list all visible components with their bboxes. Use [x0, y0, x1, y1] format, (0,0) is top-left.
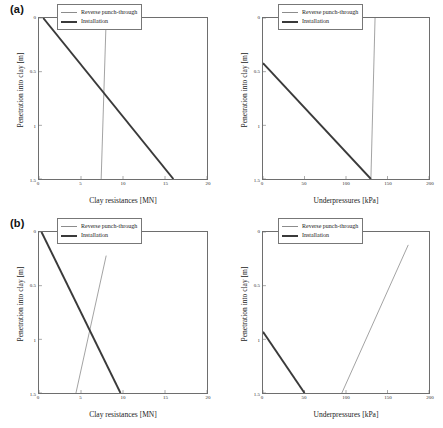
y-tick-label: 1.5 [30, 178, 36, 183]
y-tick-label: 0.5 [30, 69, 36, 74]
y-tick-label: 0 [34, 15, 37, 20]
y-tick-label: 0.5 [30, 283, 36, 288]
x-tick-label: 200 [426, 181, 434, 186]
series-line-reverse-punch-through [101, 18, 106, 179]
legend-item-reverse-punch-through: Reverse punch-through [61, 222, 137, 231]
series-line-installation [263, 63, 371, 179]
series-line-reverse-punch-through [371, 18, 375, 179]
y-tick-label: 1 [258, 337, 261, 342]
legend: Reverse punch-through Installation [57, 4, 142, 30]
x-tick-label: 20 [206, 395, 211, 400]
plot-area [262, 231, 430, 394]
legend-label: Installation [81, 17, 108, 26]
line-swatch-icon [282, 21, 298, 23]
line-swatch-icon [282, 12, 298, 13]
x-tick-labels: 05101520 [38, 181, 208, 191]
x-tick-labels: 050100150200 [262, 395, 430, 405]
legend-item-installation: Installation [61, 231, 137, 240]
legend-item-reverse-punch-through: Reverse punch-through [61, 8, 137, 17]
x-axis-title: Underpressures [kPa] [262, 196, 430, 205]
x-tick-label: 10 [121, 181, 126, 186]
x-tick-label: 50 [302, 181, 307, 186]
y-tick-label: 0.5 [254, 69, 260, 74]
legend-label: Reverse punch-through [81, 222, 137, 231]
x-tick-label: 10 [121, 395, 126, 400]
x-tick-label: 150 [384, 395, 392, 400]
legend: Reverse punch-through Installation [278, 4, 363, 30]
legend-label: Reverse punch-through [302, 222, 358, 231]
legend-label: Installation [302, 17, 329, 26]
x-tick-label: 5 [79, 395, 82, 400]
x-tick-label: 5 [79, 181, 82, 186]
x-tick-label: 15 [163, 181, 168, 186]
panel-a-left: 00.511.5 05101520 Clay resistances [MN] … [0, 0, 221, 214]
x-tick-label: 0 [261, 181, 264, 186]
x-axis-title: Clay resistances [MN] [38, 410, 208, 419]
y-tick-label: 0 [258, 229, 261, 234]
plot-curves [263, 232, 429, 393]
x-tick-label: 15 [163, 395, 168, 400]
legend: Reverse punch-through Installation [278, 218, 363, 244]
plot-curves [39, 232, 207, 393]
plot-area [38, 231, 208, 394]
y-tick-label: 0 [34, 229, 37, 234]
x-tick-label: 0 [261, 395, 264, 400]
x-tick-labels: 050100150200 [262, 181, 430, 191]
y-tick-label: 1 [258, 123, 261, 128]
x-tick-label: 50 [302, 395, 307, 400]
x-tick-label: 20 [206, 181, 211, 186]
plot-curves [263, 18, 429, 179]
line-swatch-icon [61, 21, 77, 23]
plot-area [38, 17, 208, 180]
figure-row-a: (a) 00.511.5 05101520 Clay resistances [… [0, 0, 443, 214]
line-swatch-icon [282, 226, 298, 227]
y-axis-title: Penetration into clay [m] [240, 229, 249, 379]
y-axis-title: Penetration into clay [m] [16, 15, 25, 165]
x-tick-label: 200 [426, 395, 434, 400]
x-tick-label: 0 [37, 181, 40, 186]
x-tick-label: 0 [37, 395, 40, 400]
legend-label: Installation [302, 231, 329, 240]
panel-b-right: 00.511.5 050100150200 Underpressures [kP… [222, 214, 443, 428]
x-tick-labels: 05101520 [38, 395, 208, 405]
line-swatch-icon [61, 235, 77, 237]
line-swatch-icon [61, 226, 77, 227]
plot-area [262, 17, 430, 180]
legend-item-installation: Installation [282, 17, 358, 26]
x-axis-title: Clay resistances [MN] [38, 196, 208, 205]
y-tick-label: 1.5 [254, 392, 260, 397]
series-line-reverse-punch-through [342, 245, 408, 393]
series-line-reverse-punch-through [76, 256, 106, 393]
legend: Reverse punch-through Installation [57, 218, 142, 244]
line-swatch-icon [282, 235, 298, 237]
legend-label: Installation [81, 231, 108, 240]
figure-root: (a) 00.511.5 05101520 Clay resistances [… [0, 0, 443, 428]
series-line-installation [43, 18, 173, 179]
x-tick-label: 100 [342, 395, 350, 400]
y-tick-label: 1 [34, 337, 37, 342]
legend-item-installation: Installation [61, 17, 137, 26]
x-tick-label: 150 [384, 181, 392, 186]
y-tick-label: 0.5 [254, 283, 260, 288]
y-tick-label: 1.5 [30, 392, 36, 397]
plot-curves [39, 18, 207, 179]
y-axis-title: Penetration into clay [m] [16, 229, 25, 379]
panel-b-left: 00.511.5 05101520 Clay resistances [MN] … [0, 214, 221, 428]
legend-label: Reverse punch-through [302, 8, 358, 17]
figure-row-b: (b) 00.511.5 05101520 Clay resistances [… [0, 214, 443, 428]
x-axis-title: Underpressures [kPa] [262, 410, 430, 419]
legend-item-installation: Installation [282, 231, 358, 240]
legend-label: Reverse punch-through [81, 8, 137, 17]
line-swatch-icon [61, 12, 77, 13]
y-tick-label: 1.5 [254, 178, 260, 183]
series-line-installation [263, 332, 305, 393]
panel-a-right: 00.511.5 050100150200 Underpressures [kP… [222, 0, 443, 214]
y-tick-label: 1 [34, 123, 37, 128]
legend-item-reverse-punch-through: Reverse punch-through [282, 222, 358, 231]
legend-item-reverse-punch-through: Reverse punch-through [282, 8, 358, 17]
x-tick-label: 100 [342, 181, 350, 186]
y-axis-title: Penetration into clay [m] [240, 15, 249, 165]
y-tick-label: 0 [258, 15, 261, 20]
